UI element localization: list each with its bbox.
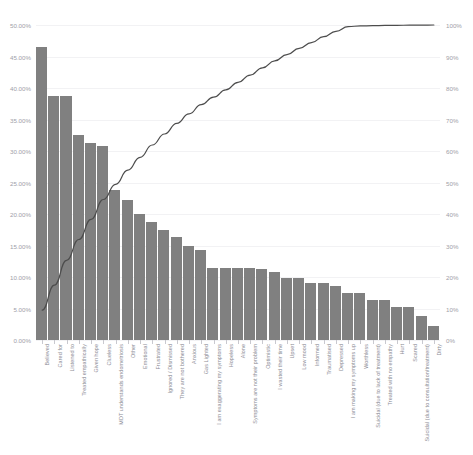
x-axis-tick-label: Alone bbox=[240, 344, 246, 358]
x-axis-tick bbox=[434, 340, 435, 344]
x-axis-tick-label: Given hope bbox=[93, 344, 99, 373]
bar[interactable] bbox=[293, 278, 304, 340]
x-axis-tick bbox=[385, 340, 386, 344]
bar[interactable] bbox=[416, 316, 427, 340]
x-axis-tick bbox=[42, 340, 43, 344]
x-axis-tick-label: Other bbox=[130, 344, 136, 358]
bar[interactable] bbox=[342, 293, 353, 340]
bar[interactable] bbox=[73, 135, 84, 340]
bar[interactable] bbox=[134, 214, 145, 340]
bar[interactable] bbox=[122, 200, 133, 340]
x-axis-tick bbox=[128, 340, 129, 344]
x-axis-tick bbox=[116, 340, 117, 344]
x-axis-tick bbox=[238, 340, 239, 344]
bar[interactable] bbox=[354, 293, 365, 340]
x-axis-tick-label: Clueless bbox=[106, 344, 112, 365]
x-axis-tick-label: Listened to bbox=[69, 344, 75, 371]
pareto-chart: 0.00%5.00%10.00%15.00%20.00%25.00%30.00%… bbox=[0, 0, 473, 455]
x-axis-tick-label: Dirty bbox=[436, 344, 442, 356]
y2-axis-tick-label: 0% bbox=[446, 337, 472, 344]
x-axis-tick-label: Traumatised bbox=[326, 344, 332, 375]
x-axis-tick bbox=[54, 340, 55, 344]
bar[interactable] bbox=[232, 268, 243, 340]
bar[interactable] bbox=[158, 230, 169, 340]
x-axis-tick bbox=[409, 340, 410, 344]
x-axis-tick bbox=[189, 340, 190, 344]
bar[interactable] bbox=[48, 96, 59, 340]
y-axis-tick-label: 15.00% bbox=[0, 242, 31, 249]
bar[interactable] bbox=[281, 278, 292, 340]
bar[interactable] bbox=[195, 250, 206, 340]
x-axis-tick bbox=[214, 340, 215, 344]
y-axis-tick-label: 50.00% bbox=[0, 22, 31, 29]
y-axis-tick-label: 0.00% bbox=[0, 337, 31, 344]
x-axis-tick bbox=[324, 340, 325, 344]
x-axis-tick bbox=[152, 340, 153, 344]
y-axis-tick-label: 25.00% bbox=[0, 179, 31, 186]
y2-axis-tick-label: 10% bbox=[446, 305, 472, 312]
bar[interactable] bbox=[391, 307, 402, 340]
y2-axis-tick-label: 40% bbox=[446, 211, 472, 218]
x-axis-tick bbox=[103, 340, 104, 344]
x-axis-tick bbox=[311, 340, 312, 344]
x-axis-tick bbox=[79, 340, 80, 344]
x-axis-tick-label: Low mood bbox=[301, 344, 307, 370]
x-axis-tick-label: Upset bbox=[289, 344, 295, 359]
x-axis-tick-label: Scared bbox=[412, 344, 418, 362]
x-axis-tick-label: Ignored / Dismissed bbox=[167, 344, 173, 394]
x-axis-tick bbox=[336, 340, 337, 344]
y-axis-tick-label: 40.00% bbox=[0, 85, 31, 92]
bar[interactable] bbox=[379, 300, 390, 340]
x-axis-tick-label: Hopeless bbox=[228, 344, 234, 367]
x-axis-tick bbox=[287, 340, 288, 344]
x-axis-tick-label: Believed bbox=[44, 344, 50, 365]
x-axis-tick bbox=[226, 340, 227, 344]
bar[interactable] bbox=[318, 283, 329, 340]
bar[interactable] bbox=[36, 47, 47, 340]
x-axis-tick-label: I am making my symptoms up bbox=[350, 344, 356, 418]
x-axis-tick-label: Hurt bbox=[399, 344, 405, 355]
bar[interactable] bbox=[183, 246, 194, 341]
x-axis-tick-label: Gas Lighted bbox=[203, 344, 209, 374]
bar[interactable] bbox=[403, 307, 414, 340]
x-axis-tick bbox=[165, 340, 166, 344]
y-axis-tick-label: 35.00% bbox=[0, 116, 31, 123]
bar[interactable] bbox=[146, 222, 157, 340]
x-axis-tick-label: Symptoms are not their problem bbox=[252, 344, 258, 424]
bar[interactable] bbox=[97, 146, 108, 340]
y2-axis-tick-label: 50% bbox=[446, 179, 472, 186]
x-axis-tick bbox=[373, 340, 374, 344]
y-axis-tick-label: 10.00% bbox=[0, 274, 31, 281]
x-axis-tick-label: Treated empathically bbox=[81, 344, 87, 396]
x-axis-tick-label: Optimistic bbox=[265, 344, 271, 369]
bar[interactable] bbox=[244, 268, 255, 340]
y2-axis-tick-label: 70% bbox=[446, 116, 472, 123]
bar[interactable] bbox=[109, 190, 120, 340]
x-axis-tick-label: Anxious bbox=[191, 344, 197, 364]
bar[interactable] bbox=[207, 268, 218, 340]
x-axis-tick-label: Worthless bbox=[363, 344, 369, 369]
y-axis-tick-label: 5.00% bbox=[0, 305, 31, 312]
y-axis-tick-label: 45.00% bbox=[0, 53, 31, 60]
bar[interactable] bbox=[85, 143, 96, 340]
bar[interactable] bbox=[220, 268, 231, 340]
bar[interactable] bbox=[171, 237, 182, 340]
x-axis-tick bbox=[140, 340, 141, 344]
plot-area bbox=[36, 25, 440, 340]
bar[interactable] bbox=[60, 96, 71, 340]
y2-axis-tick-label: 100% bbox=[446, 22, 472, 29]
y2-axis-tick-label: 20% bbox=[446, 274, 472, 281]
bar[interactable] bbox=[330, 286, 341, 340]
x-axis-tick-label: Cared for bbox=[57, 344, 63, 367]
bar[interactable] bbox=[305, 283, 316, 340]
x-axis-tick-label: They are not bothered bbox=[179, 344, 185, 399]
x-axis-tick bbox=[360, 340, 361, 344]
x-axis-tick-label: Informed bbox=[314, 344, 320, 366]
y-axis-tick-label: 30.00% bbox=[0, 148, 31, 155]
bar[interactable] bbox=[367, 300, 378, 340]
x-axis-tick-label: I wasted their time bbox=[277, 344, 283, 390]
bar[interactable] bbox=[269, 272, 280, 340]
x-axis-tick-label: Suicidal (due to lack of treatment) bbox=[375, 344, 381, 428]
bar[interactable] bbox=[256, 269, 267, 340]
bar[interactable] bbox=[428, 326, 439, 340]
